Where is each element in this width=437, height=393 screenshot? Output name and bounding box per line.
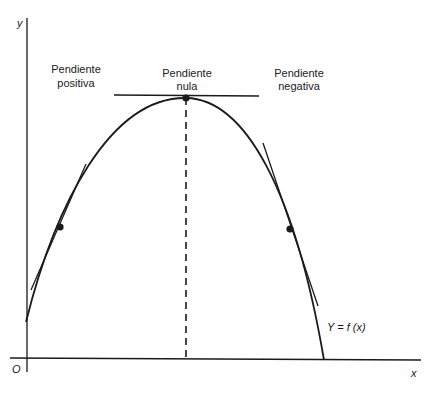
x-axis (10, 358, 421, 360)
negative-slope-label-line1: Pendiente (274, 67, 324, 79)
maximum-point (182, 94, 189, 101)
negative-slope-point (286, 225, 293, 232)
zero-slope-label-line2: nula (177, 80, 199, 92)
positive-slope-point (56, 223, 63, 230)
y-axis-label: y (16, 17, 24, 29)
slope-diagram: y x O Pendiente positiva Pendiente nula … (0, 0, 437, 393)
zero-slope-label-line1: Pendiente (162, 67, 212, 79)
positive-slope-label-line1: Pendiente (51, 63, 101, 75)
function-curve (26, 98, 324, 360)
positive-slope-label-line2: positiva (57, 77, 95, 89)
negative-slope-tangent (263, 143, 318, 306)
function-label: Y = f (x) (327, 321, 366, 333)
negative-slope-label-line2: negativa (278, 80, 320, 92)
origin-label: O (12, 363, 21, 375)
x-axis-label: x (410, 367, 417, 379)
